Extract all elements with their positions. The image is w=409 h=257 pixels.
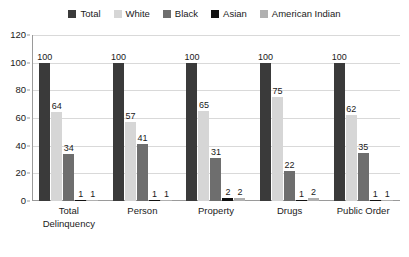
bar[interactable] (308, 198, 319, 201)
bar-slot: 31 (210, 35, 221, 201)
bar[interactable] (113, 63, 124, 201)
bar-value-label: 2 (311, 187, 316, 197)
bar-slot: 100 (334, 35, 345, 201)
bar[interactable] (210, 158, 221, 201)
bar[interactable] (137, 144, 148, 201)
bar-value-label: 57 (125, 111, 135, 121)
chart-legend: TotalWhiteBlackAsianAmerican Indian (0, 9, 409, 19)
bar-slot: 1 (161, 35, 172, 201)
bar-value-label: 64 (52, 101, 62, 111)
y-tick-label: 0 (21, 196, 26, 206)
bar-group: 100752212 (253, 35, 327, 201)
bar-slot: 64 (51, 35, 62, 201)
bar[interactable] (260, 63, 271, 201)
legend-item-black[interactable]: Black (163, 9, 198, 19)
x-axis-labels: TotalDelinquencyPersonPropertyDrugsPubli… (32, 204, 400, 230)
bar-slot: 100 (186, 35, 197, 201)
bar[interactable] (63, 154, 74, 201)
bar-value-label: 1 (385, 189, 390, 199)
y-axis: 020406080100120 (0, 35, 30, 201)
bar[interactable] (234, 198, 245, 201)
y-tick-label: 120 (10, 30, 26, 40)
legend-label: White (126, 9, 150, 19)
x-axis-label-line: Property (179, 204, 253, 217)
bar-value-label: 100 (332, 52, 347, 62)
bar-value-label: 41 (137, 133, 147, 143)
bar-slot: 1 (296, 35, 307, 201)
bar-value-label: 65 (199, 100, 209, 110)
bar-value-label: 1 (152, 189, 157, 199)
bar-value-label: 1 (90, 189, 95, 199)
legend-swatch-icon (260, 10, 268, 18)
x-axis-label-line: Public Order (326, 204, 400, 217)
bar-slot: 2 (234, 35, 245, 201)
bar-slot: 75 (272, 35, 283, 201)
legend-label: Black (175, 9, 198, 19)
y-tick-label: 40 (15, 141, 26, 151)
x-axis-label-line: Delinquency (32, 217, 106, 230)
bar[interactable] (51, 112, 62, 201)
bar[interactable] (358, 153, 369, 201)
x-axis-label: Person (106, 204, 180, 230)
y-tick-label: 60 (15, 113, 26, 123)
bar[interactable] (198, 111, 209, 201)
bar-value-label: 100 (184, 52, 199, 62)
bar[interactable] (186, 63, 197, 201)
x-axis-label-line: Person (106, 204, 180, 217)
bar[interactable] (346, 115, 357, 201)
bar[interactable] (149, 200, 160, 202)
bar[interactable] (284, 171, 295, 201)
bar-value-label: 22 (285, 160, 295, 170)
bar-slot: 1 (370, 35, 381, 201)
y-tick-mark (27, 173, 30, 174)
bar-group: 100574111 (106, 35, 180, 201)
bar-slot: 62 (346, 35, 357, 201)
y-tick-mark (27, 35, 30, 36)
bar[interactable] (87, 200, 98, 202)
x-axis-label-line: Total (32, 204, 106, 217)
bar-slot: 41 (137, 35, 148, 201)
bar[interactable] (370, 200, 381, 202)
bar-slot: 100 (39, 35, 50, 201)
y-tick-mark (27, 62, 30, 63)
bar[interactable] (382, 200, 393, 202)
bar[interactable] (39, 63, 50, 201)
bar-slot: 34 (63, 35, 74, 201)
legend-item-white[interactable]: White (114, 9, 150, 19)
bar-value-label: 1 (164, 189, 169, 199)
bar-slot: 100 (113, 35, 124, 201)
bar-slot: 65 (198, 35, 209, 201)
y-tick-label: 80 (15, 85, 26, 95)
bar-slot: 35 (358, 35, 369, 201)
legend-label: Asian (223, 9, 247, 19)
bar[interactable] (222, 198, 233, 201)
x-axis-label-line: Drugs (253, 204, 327, 217)
legend-item-total[interactable]: Total (68, 9, 100, 19)
legend-label: Total (80, 9, 100, 19)
legend-item-asian[interactable]: Asian (211, 9, 247, 19)
legend-item-american-indian[interactable]: American Indian (260, 9, 341, 19)
bar[interactable] (296, 200, 307, 202)
legend-swatch-icon (68, 10, 76, 18)
bar-value-label: 2 (225, 187, 230, 197)
legend-swatch-icon (211, 10, 219, 18)
bar[interactable] (334, 63, 345, 201)
bar-value-label: 1 (299, 189, 304, 199)
x-axis-label: Property (179, 204, 253, 230)
bar-value-label: 100 (258, 52, 273, 62)
y-tick-label: 100 (10, 58, 26, 68)
bar-slot: 22 (284, 35, 295, 201)
bar[interactable] (125, 122, 136, 201)
bar[interactable] (161, 200, 172, 202)
x-axis-label: Drugs (253, 204, 327, 230)
x-axis-label: Public Order (326, 204, 400, 230)
bar[interactable] (272, 97, 283, 201)
bar[interactable] (75, 200, 86, 202)
y-tick-mark (27, 145, 30, 146)
bar-chart: TotalWhiteBlackAsianAmerican Indian 0204… (0, 0, 409, 257)
bar-slot: 1 (87, 35, 98, 201)
legend-swatch-icon (114, 10, 122, 18)
bar-value-label: 1 (373, 189, 378, 199)
bar-group: 100623511 (326, 35, 400, 201)
bar-value-label: 34 (64, 143, 74, 153)
